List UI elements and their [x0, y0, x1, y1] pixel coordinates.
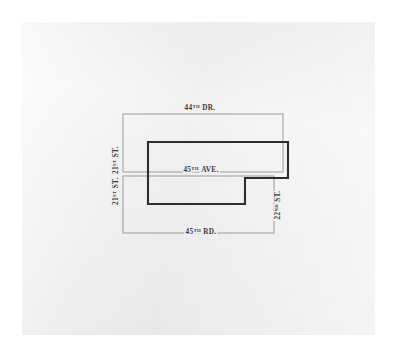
- street-22nd-type: ST.: [274, 191, 282, 202]
- street-45ave-type: AVE.: [201, 166, 218, 174]
- svg-text:45THAVE.: 45THAVE.: [183, 166, 218, 175]
- street-45ave-ordinal-suffix: TH: [191, 166, 199, 171]
- street-21st-upper-type: ST.: [112, 146, 120, 157]
- street-45rd-type: RD.: [203, 228, 216, 236]
- street-22nd-ordinal-suffix: ND: [274, 204, 279, 212]
- street-label-21st-st-upper: 21STST. 21STST.: [112, 146, 121, 174]
- street-label-44th-dr: 44TH DR. 44THDR.: [185, 104, 216, 113]
- street-label-45th-rd: 45THRD. 45THRD.: [186, 228, 217, 237]
- svg-text:21STST.: 21STST.: [112, 146, 121, 174]
- street-21st-upper-ordinal-suffix: ST: [112, 159, 117, 166]
- svg-text:21STST.: 21STST.: [112, 177, 121, 205]
- street-44-number: 44: [185, 104, 193, 112]
- street-21st-lower-ordinal-suffix: ST: [112, 190, 117, 197]
- street-label-21st-st-lower: 21STST. 21STST.: [112, 177, 121, 205]
- street-44-type: DR.: [202, 104, 215, 112]
- map-page: 44TH DR. 44THDR. 45THAVE. 45THAVE. 45THR…: [0, 0, 397, 354]
- street-map-diagram: 44TH DR. 44THDR. 45THAVE. 45THAVE. 45THR…: [0, 0, 397, 354]
- svg-text:45THRD.: 45THRD.: [186, 228, 217, 237]
- street-21st-upper-number: 21: [112, 166, 120, 174]
- street-label-22nd-st: 22NDST. 22NDST.: [274, 191, 283, 220]
- svg-text:22NDST.: 22NDST.: [274, 191, 283, 220]
- street-45ave-number: 45: [183, 166, 191, 174]
- street-21st-lower-number: 21: [112, 197, 120, 205]
- street-22nd-number: 22: [274, 211, 282, 219]
- street-44-ordinal-suffix: TH: [192, 104, 200, 109]
- street-21st-lower-type: ST.: [112, 177, 120, 188]
- street-45rd-ordinal-suffix: TH: [193, 228, 201, 233]
- street-45rd-number: 45: [186, 228, 194, 236]
- street-label-45th-ave: 45THAVE. 45THAVE.: [183, 166, 218, 175]
